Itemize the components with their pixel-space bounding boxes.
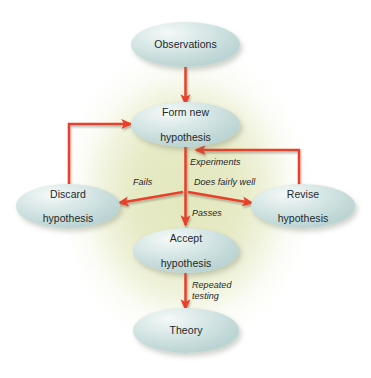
- line-2: hypothesis: [39, 212, 98, 224]
- edge-label-fails: Fails: [133, 177, 152, 188]
- node-discard-hypothesis-label: Discard hypothesis: [35, 188, 102, 225]
- repeated-testing-line-2: testing: [192, 291, 219, 301]
- scientific-method-flowchart: Observations Form new hypothesis Discard…: [0, 0, 371, 378]
- edge-label-repeated-testing: Repeated testing: [192, 280, 231, 301]
- node-observations-label: Observations: [150, 38, 220, 50]
- line-1: Discard: [39, 188, 98, 200]
- node-observations[interactable]: Observations: [131, 22, 240, 67]
- edge-label-experiments: Experiments: [190, 157, 241, 168]
- edge-junction-to-discard: [119, 192, 183, 203]
- node-accept-hypothesis-label: Accept hypothesis: [153, 232, 220, 269]
- line-1: Revise: [274, 188, 333, 200]
- node-theory[interactable]: Theory: [133, 308, 239, 353]
- edge-label-passes: Passes: [192, 208, 222, 219]
- line-1: Form new: [156, 106, 215, 118]
- repeated-testing-line-1: Repeated: [192, 280, 231, 290]
- line-2: hypothesis: [156, 131, 215, 143]
- line-2: hypothesis: [157, 257, 216, 269]
- edge-label-does-fairly-well: Does fairly well: [194, 177, 255, 188]
- node-form-new-hypothesis[interactable]: Form new hypothesis: [131, 102, 240, 147]
- line-2: hypothesis: [274, 212, 333, 224]
- node-accept-hypothesis[interactable]: Accept hypothesis: [133, 228, 239, 273]
- node-form-new-hypothesis-label: Form new hypothesis: [152, 106, 219, 143]
- node-theory-label: Theory: [166, 324, 207, 336]
- edge-discard-to-form: [69, 124, 131, 188]
- line-1: Accept: [157, 232, 216, 244]
- node-revise-hypothesis-label: Revise hypothesis: [270, 188, 337, 225]
- node-discard-hypothesis[interactable]: Discard hypothesis: [16, 184, 120, 228]
- node-revise-hypothesis[interactable]: Revise hypothesis: [251, 184, 355, 228]
- edge-junction-to-revise: [188, 192, 252, 203]
